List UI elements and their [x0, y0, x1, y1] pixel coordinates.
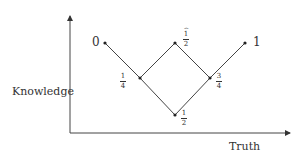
- denominator: 2: [184, 41, 188, 48]
- node-dot: [173, 113, 176, 116]
- denominator: 4: [217, 83, 221, 90]
- x-axis-label: Truth: [229, 141, 260, 152]
- denominator: 4: [121, 83, 125, 90]
- lattice-edge: [140, 43, 175, 78]
- knowledge-truth-lattice-diagram: Knowledge Truth 0 1 4 ⌢ 1 2 1 2 3 4 1: [0, 0, 299, 163]
- node-label-1: 1: [253, 36, 261, 48]
- node-dot: [173, 41, 176, 44]
- numerator: 1: [184, 31, 188, 38]
- denominator: 2: [182, 120, 186, 127]
- y-axis-label: Knowledge: [12, 86, 74, 97]
- node-label-0: 0: [92, 36, 100, 48]
- node-label-three-quarters: 3 4: [216, 73, 222, 90]
- node-label-one-half-hat: ⌢ 1 2: [183, 26, 189, 48]
- node-dot: [243, 41, 246, 44]
- diagram-lines: [0, 0, 299, 163]
- lattice-edge: [140, 78, 175, 115]
- numerator: 3: [217, 73, 221, 80]
- lattice-edge: [175, 43, 210, 78]
- numerator: 1: [182, 110, 186, 117]
- lattice-edges: [105, 43, 245, 115]
- node-label-one-half: 1 2: [181, 110, 187, 127]
- node-dot: [103, 41, 106, 44]
- node-label-one-quarter: 1 4: [120, 73, 126, 90]
- node-dot: [138, 76, 141, 79]
- node-dot: [208, 76, 211, 79]
- numerator: 1: [121, 73, 125, 80]
